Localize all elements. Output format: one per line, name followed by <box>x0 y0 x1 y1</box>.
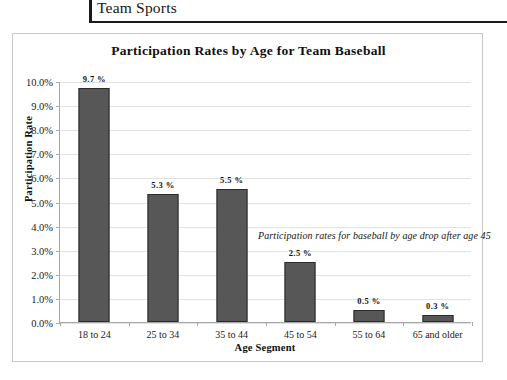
y-axis-label: 9.0% <box>31 101 53 112</box>
y-axis-label: 3.0% <box>31 245 53 256</box>
bar[interactable] <box>216 189 247 322</box>
x-axis-tick <box>129 322 130 326</box>
x-axis-tick <box>472 322 473 326</box>
y-axis-label: 4.0% <box>31 221 53 232</box>
bar-group: 0.5 %55 to 64 <box>335 82 404 322</box>
bar[interactable] <box>422 315 453 322</box>
bar-value-label: 2.5 % <box>289 248 312 258</box>
x-axis-tick <box>403 322 404 326</box>
y-axis-label: 2.0% <box>31 269 53 280</box>
bar-group: 5.3 %25 to 34 <box>129 82 198 322</box>
chart-title: Participation Rates by Age for Team Base… <box>13 43 484 59</box>
bar-group: 0.3 %65 and older <box>403 82 472 322</box>
x-axis-tick <box>197 322 198 326</box>
y-axis-label: 1.0% <box>31 293 53 304</box>
x-axis-category-label: 35 to 44 <box>215 329 248 340</box>
bar-value-label: 5.5 % <box>220 175 243 185</box>
y-axis-label: 5.0% <box>31 197 53 208</box>
x-axis-category-label: 55 to 64 <box>353 329 386 340</box>
y-axis-label: 7.0% <box>31 149 53 160</box>
bar-value-label: 9.7 % <box>83 74 106 84</box>
chart-annotation: Participation rates for baseball by age … <box>258 230 491 241</box>
bar-value-label: 0.5 % <box>357 296 380 306</box>
x-axis-category-label: 18 to 24 <box>78 329 111 340</box>
y-axis-label: 0.0% <box>31 318 53 329</box>
page-header: Team Sports <box>0 0 507 28</box>
bar-group: 2.5 %45 to 54 <box>266 82 335 322</box>
y-axis-label: 10.0% <box>26 77 53 88</box>
chart-container: Participation Rates by Age for Team Base… <box>12 33 483 362</box>
x-axis-tick <box>335 322 336 326</box>
bar-value-label: 0.3 % <box>426 301 449 311</box>
page-title: Team Sports <box>97 0 177 17</box>
bar[interactable] <box>79 88 110 322</box>
x-axis-tick <box>60 322 61 326</box>
y-axis-label: 6.0% <box>31 173 53 184</box>
bar[interactable] <box>353 310 384 322</box>
header-divider-rule <box>89 21 507 23</box>
bar-group: 9.7 %18 to 24 <box>60 82 129 322</box>
header-accent-bar <box>89 0 92 23</box>
x-axis-category-label: 45 to 54 <box>284 329 317 340</box>
x-axis-category-label: 25 to 34 <box>147 329 180 340</box>
plot-area: 10.0%9.0%8.0%7.0%6.0%5.0%4.0%3.0%2.0%1.0… <box>59 82 471 323</box>
y-axis-label: 8.0% <box>31 125 53 136</box>
bar-group: 5.5 %35 to 44 <box>197 82 266 322</box>
x-axis-category-label: 65 and older <box>413 329 463 340</box>
bar[interactable] <box>285 262 316 322</box>
bar[interactable] <box>147 194 178 322</box>
bar-value-label: 5.3 % <box>151 180 174 190</box>
x-axis-title: Age Segment <box>59 342 471 353</box>
x-axis-tick <box>266 322 267 326</box>
